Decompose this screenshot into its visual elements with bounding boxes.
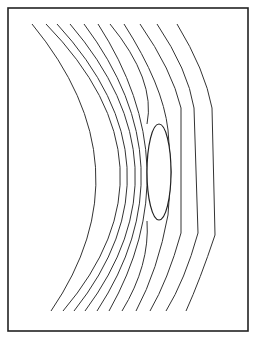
wavefront-line (32, 24, 96, 311)
wavefront-line (46, 24, 120, 311)
wavefront-line (84, 24, 141, 311)
wavefront-line (98, 24, 147, 311)
wavefront-line (57, 24, 127, 311)
lens (147, 124, 171, 220)
figure-frame (8, 8, 248, 331)
wavefront-group (32, 24, 215, 311)
lens-wavefront-diagram (0, 0, 256, 339)
